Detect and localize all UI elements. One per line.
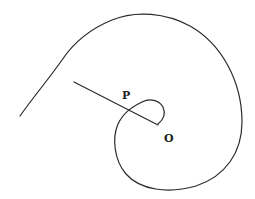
origin-o-label: O: [164, 132, 174, 145]
spiral-diagram: P O: [0, 0, 255, 199]
spiral-curve: [20, 14, 242, 190]
spiral-figure: P O: [0, 0, 255, 199]
radius-line-op: [74, 82, 158, 125]
point-p-label: P: [122, 89, 130, 102]
